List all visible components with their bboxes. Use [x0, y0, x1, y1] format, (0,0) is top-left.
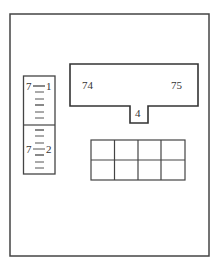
scale-block: 7 1 7 2	[24, 76, 56, 174]
scale-top-right-label: 1	[46, 80, 52, 92]
scale-ticks	[33, 86, 45, 168]
t-block-right-label: 75	[171, 79, 183, 91]
scale-bottom-left-label: 7	[26, 143, 32, 155]
t-block: 74 75 4	[70, 64, 198, 123]
diagram-canvas: 7 1 7 2 74 75 4	[0, 0, 218, 266]
grid-block	[91, 140, 185, 180]
t-block-left-label: 74	[82, 79, 94, 91]
t-block-outline	[70, 64, 198, 123]
scale-bottom-right-label: 2	[46, 143, 52, 155]
t-block-notch-label: 4	[135, 107, 141, 119]
scale-top-left-label: 7	[26, 80, 32, 92]
outer-frame	[10, 14, 209, 256]
